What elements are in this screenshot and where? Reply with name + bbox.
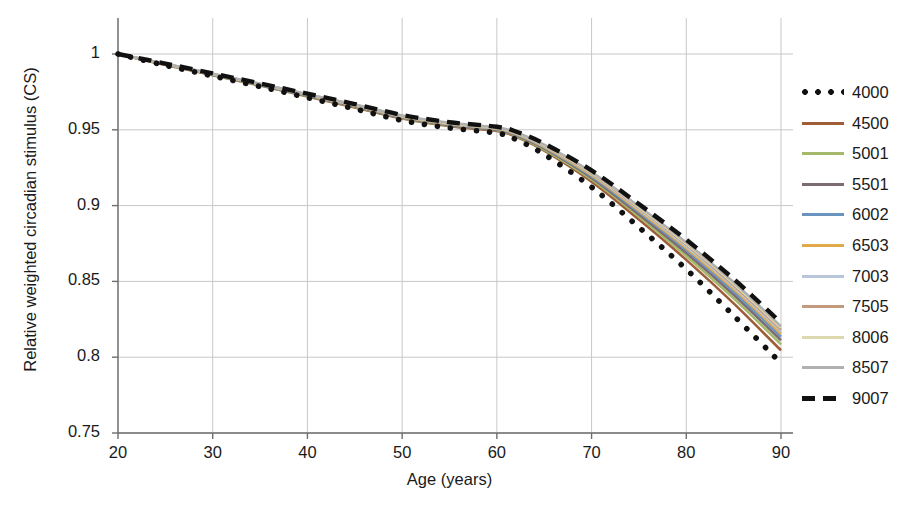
legend-item[interactable]: 6503 bbox=[800, 235, 898, 255]
legend-item[interactable]: 9007 bbox=[800, 388, 898, 408]
chart-figure: Relative weighted circadian stimulus (CS… bbox=[0, 0, 901, 519]
legend-label: 9007 bbox=[852, 388, 889, 408]
data-series-group bbox=[118, 54, 781, 363]
y-axis-title: Relative weighted circadian stimulus (CS… bbox=[21, 20, 40, 420]
plot-area bbox=[0, 0, 901, 519]
legend-swatch bbox=[802, 89, 844, 95]
legend-label: 4500 bbox=[852, 113, 889, 133]
series-line bbox=[118, 54, 781, 329]
legend-label: 6503 bbox=[852, 235, 889, 255]
legend-swatch bbox=[802, 305, 844, 308]
x-tick-label: 50 bbox=[372, 443, 432, 462]
y-tick-label: 0.9 bbox=[40, 195, 100, 214]
legend-item[interactable]: 8006 bbox=[800, 327, 898, 347]
y-tick-label: 0.8 bbox=[40, 346, 100, 365]
series-line bbox=[118, 54, 781, 331]
x-tick-label: 80 bbox=[656, 443, 716, 462]
legend-swatch bbox=[802, 122, 844, 125]
legend-label: 7003 bbox=[852, 266, 889, 286]
legend-item[interactable]: 7505 bbox=[800, 296, 898, 316]
legend-item[interactable]: 8507 bbox=[800, 357, 898, 377]
legend-label: 5501 bbox=[852, 174, 889, 194]
legend-label: 8006 bbox=[852, 327, 889, 347]
x-tick-label: 60 bbox=[467, 443, 527, 462]
legend-label: 6002 bbox=[852, 204, 889, 224]
legend-swatch bbox=[802, 183, 844, 186]
x-tick-label: 70 bbox=[562, 443, 622, 462]
x-tick-label: 30 bbox=[183, 443, 243, 462]
legend-swatch bbox=[802, 336, 844, 339]
legend-swatch bbox=[802, 152, 844, 155]
y-tick-label: 0.75 bbox=[40, 422, 100, 441]
series-line bbox=[118, 54, 781, 344]
series-line bbox=[118, 54, 781, 340]
series-line bbox=[118, 54, 781, 326]
legend-label: 4000 bbox=[852, 82, 889, 102]
legend-label: 8507 bbox=[852, 357, 889, 377]
x-axis-title: Age (years) bbox=[118, 470, 781, 489]
legend-swatch bbox=[802, 366, 844, 369]
y-tick-label: 0.85 bbox=[40, 270, 100, 289]
legend-item[interactable]: 5001 bbox=[800, 143, 898, 163]
y-tick-label: 0.95 bbox=[40, 119, 100, 138]
x-tick-label: 40 bbox=[277, 443, 337, 462]
series-line bbox=[118, 54, 781, 350]
legend-item[interactable]: 7003 bbox=[800, 266, 898, 286]
legend-swatch bbox=[802, 244, 844, 247]
legend-swatch bbox=[802, 213, 844, 216]
legend-item[interactable]: 4500 bbox=[800, 113, 898, 133]
series-line bbox=[118, 54, 781, 337]
series-line bbox=[118, 54, 781, 363]
series-line bbox=[118, 54, 781, 323]
legend-swatch bbox=[802, 396, 844, 401]
legend-label: 7505 bbox=[852, 296, 889, 316]
x-tick-label: 90 bbox=[751, 443, 811, 462]
legend-item[interactable]: 6002 bbox=[800, 204, 898, 224]
series-line bbox=[118, 54, 781, 328]
legend-item[interactable]: 4000 bbox=[800, 82, 898, 102]
y-tick-label: 1 bbox=[40, 43, 100, 62]
legend-item[interactable]: 5501 bbox=[800, 174, 898, 194]
x-tick-label: 20 bbox=[88, 443, 148, 462]
chart-legend: 4000450050015501600265037003750580068507… bbox=[800, 82, 898, 422]
legend-swatch bbox=[802, 275, 844, 278]
legend-label: 5001 bbox=[852, 143, 889, 163]
series-line bbox=[118, 54, 781, 334]
